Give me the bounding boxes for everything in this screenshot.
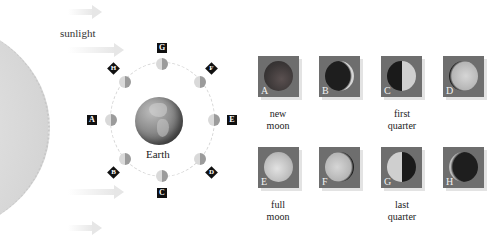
orbit-tag-e: E — [227, 115, 237, 125]
orbit-tag-g: G — [157, 43, 167, 53]
sunlight-arrow — [68, 222, 94, 234]
caption-full-moon: fullmoon — [248, 199, 308, 223]
tile-letter: F — [322, 176, 328, 187]
phase-tile-d: D — [443, 56, 484, 97]
tile-letter: D — [446, 85, 453, 96]
tile-letter: G — [384, 176, 391, 187]
orbit-tag-c: C — [157, 188, 167, 198]
tile-letter: H — [446, 176, 453, 187]
tile-letter: C — [384, 85, 391, 96]
moon-first-quarter-icon — [387, 61, 416, 91]
orbit-moon-d — [194, 153, 206, 165]
orbit-moon-e — [208, 114, 220, 126]
orbit-moon-a — [105, 114, 117, 126]
moon-waxing-crescent-icon — [325, 61, 354, 91]
orbit-tag-h: H — [107, 62, 120, 75]
orbit-moon-b — [119, 153, 131, 165]
orbit-tag-d: D — [205, 166, 218, 179]
orbit-tag-b: B — [107, 166, 120, 179]
orbit-moon-g — [156, 58, 168, 70]
phase-tile-g: G — [381, 147, 422, 188]
moon-last-quarter-icon — [387, 152, 416, 182]
orbit-tag-a: A — [87, 115, 97, 125]
moon-waning-gibbous-icon — [325, 152, 354, 182]
orbit-moon-h — [119, 76, 131, 88]
earth-label: Earth — [146, 148, 170, 160]
tile-letter: B — [322, 85, 329, 96]
caption-first-quarter: firstquarter — [372, 108, 432, 132]
caption-last-quarter: lastquarter — [372, 199, 432, 223]
moon-full-icon — [264, 152, 293, 182]
sunlight-label: sunlight — [60, 27, 95, 39]
orbit-tag-f: F — [205, 62, 218, 75]
earth-globe — [135, 97, 183, 145]
phase-tile-f: F — [319, 147, 360, 188]
moon-new-icon — [264, 61, 293, 91]
phase-tile-c: C — [381, 56, 422, 97]
sunlight-arrow — [68, 186, 116, 198]
orbit-moon-c — [156, 170, 168, 182]
phase-tile-h: H — [443, 147, 484, 188]
sun — [0, 20, 50, 235]
moon-waning-crescent-icon — [449, 152, 478, 182]
phase-tile-a: A — [258, 56, 299, 97]
phase-tile-e: E — [258, 147, 299, 188]
moon-waxing-gibbous-icon — [449, 61, 478, 91]
orbit-moon-f — [194, 76, 206, 88]
sunlight-arrow — [68, 44, 116, 56]
phase-tile-b: B — [319, 56, 360, 97]
tile-letter: E — [261, 176, 267, 187]
tile-letter: A — [261, 85, 268, 96]
sunlight-arrow — [68, 6, 94, 18]
caption-new-moon: newmoon — [248, 108, 308, 132]
